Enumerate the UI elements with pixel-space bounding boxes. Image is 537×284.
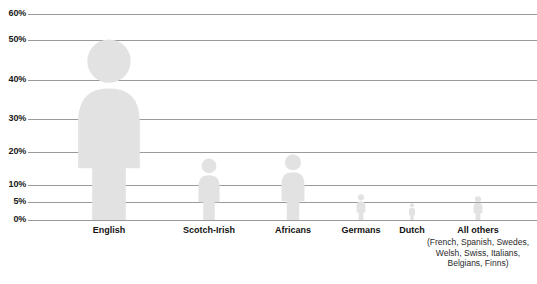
- category-label-english: English: [93, 225, 126, 236]
- person-icon: [197, 158, 221, 220]
- category-label-africans: Africans: [275, 225, 311, 236]
- pictogram-chart: 60%50%40%30%20%10%5%0% EnglishScotch-Iri…: [0, 0, 537, 284]
- person-icon: [280, 154, 306, 220]
- category-label-scotch-irish: Scotch-Irish: [183, 225, 235, 236]
- category-label-germans: Germans: [341, 225, 380, 236]
- category-label-dutch: Dutch: [399, 225, 425, 236]
- person-icon: [473, 196, 483, 220]
- person-icon: [74, 38, 144, 220]
- category-sublabel-all-others: (French, Spanish, Swedes, Welsh, Swiss, …: [418, 237, 537, 269]
- person-icon: [356, 194, 366, 220]
- category-label-all-others: All others: [457, 225, 499, 236]
- person-icon: [409, 203, 416, 220]
